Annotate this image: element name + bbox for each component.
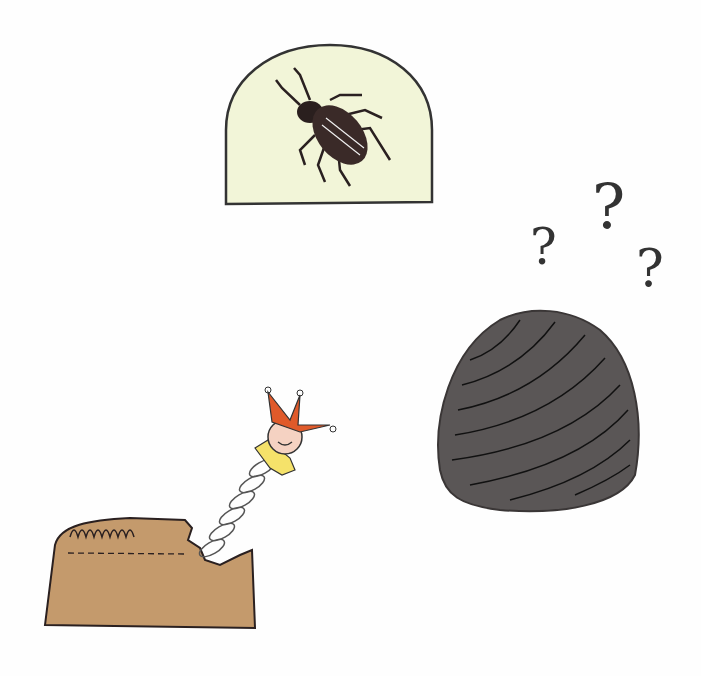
illustration: ? ? ? (0, 0, 701, 676)
spring-icon (197, 456, 277, 560)
beetle-dome (226, 45, 432, 204)
illustration-svg (0, 0, 701, 676)
question-mark-1: ? (530, 218, 557, 276)
jack-in-the-box (45, 387, 336, 628)
question-mark-3: ? (636, 238, 664, 298)
dark-mound (438, 311, 639, 512)
question-mark-2: ? (592, 170, 625, 243)
